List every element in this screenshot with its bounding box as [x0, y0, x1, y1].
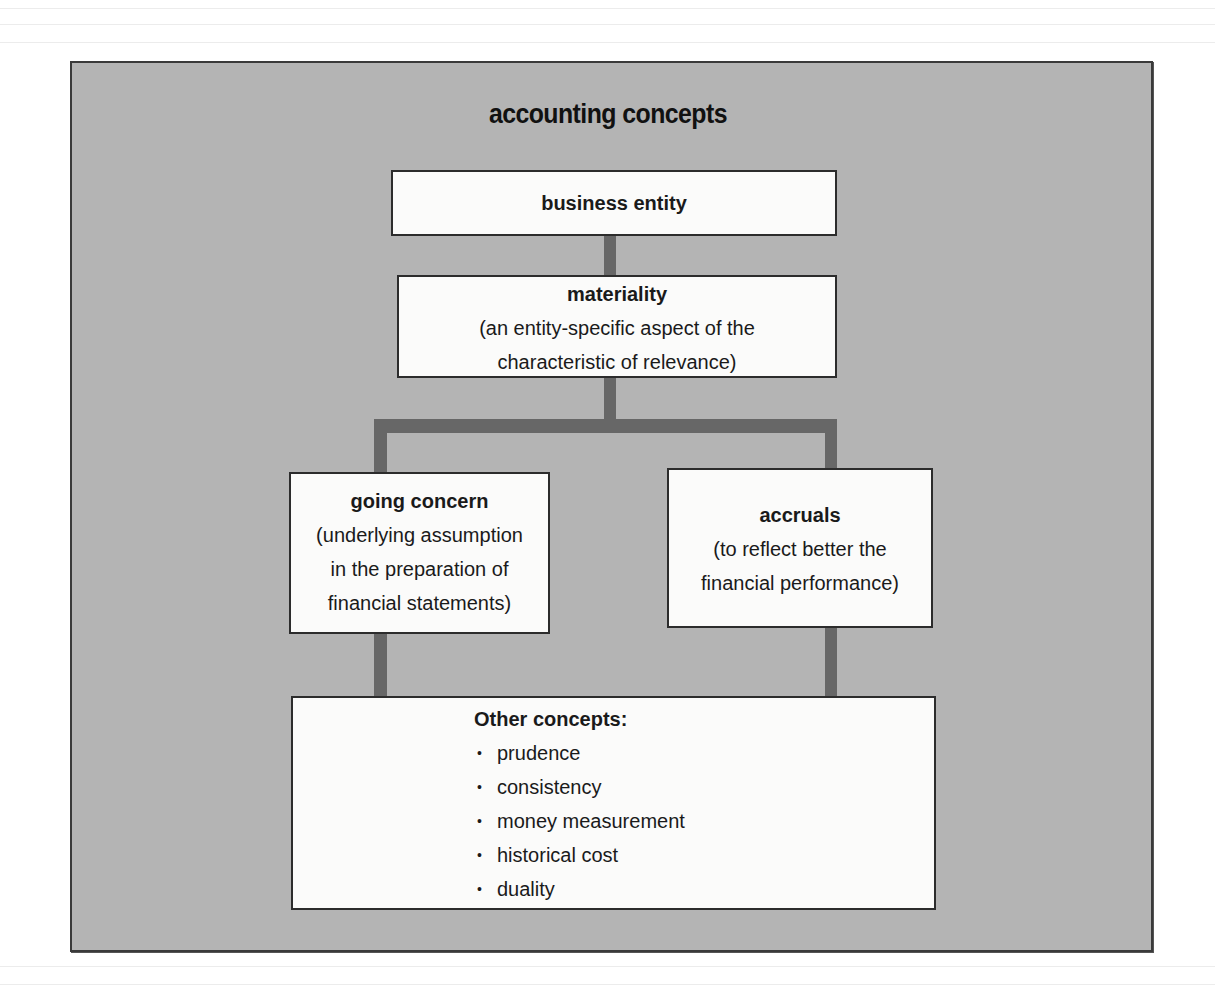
list-item-label: historical cost: [497, 844, 618, 866]
node-going-concern-line: in the preparation of: [291, 552, 548, 586]
list-item: • prudence: [477, 736, 685, 770]
connector-branch-horizontal: [374, 419, 837, 433]
node-business-entity-heading: business entity: [393, 186, 835, 220]
node-business-entity: business entity: [391, 170, 837, 236]
scan-bleed-line: [0, 24, 1215, 25]
list-item: • money measurement: [477, 804, 685, 838]
node-going-concern-heading: going concern: [291, 484, 548, 518]
node-materiality-heading: materiality: [399, 277, 835, 311]
list-item-label: prudence: [497, 742, 580, 764]
connector-business-entity-to-materiality: [604, 234, 616, 276]
node-going-concern-line: (underlying assumption: [291, 518, 548, 552]
node-materiality-line: (an entity-specific aspect of the: [399, 311, 835, 345]
bullet-icon: •: [477, 838, 482, 872]
list-item: • historical cost: [477, 838, 685, 872]
node-going-concern: going concern (underlying assumption in …: [289, 472, 550, 634]
scan-bleed-line: [0, 42, 1215, 43]
list-item-label: duality: [497, 878, 555, 900]
node-materiality: materiality (an entity-specific aspect o…: [397, 275, 837, 378]
list-item-label: money measurement: [497, 810, 685, 832]
node-accruals-line: financial performance): [669, 566, 931, 600]
bullet-icon: •: [477, 736, 482, 770]
node-accruals-line: (to reflect better the: [669, 532, 931, 566]
node-accruals: accruals (to reflect better the financia…: [667, 468, 933, 628]
list-item: • consistency: [477, 770, 685, 804]
bullet-icon: •: [477, 872, 482, 906]
node-going-concern-line: financial statements): [291, 586, 548, 620]
bullet-icon: •: [477, 804, 482, 838]
diagram-title: accounting concepts: [49, 99, 1167, 130]
list-item: • duality: [477, 872, 685, 906]
node-other-concepts-heading: Other concepts:: [474, 702, 627, 736]
scan-bleed-line: [0, 984, 1215, 985]
scan-bleed-line: [0, 8, 1215, 9]
node-other-concepts: Other concepts: • prudence • consistency…: [291, 696, 936, 910]
node-accruals-heading: accruals: [669, 498, 931, 532]
list-item-label: consistency: [497, 776, 602, 798]
node-materiality-line: characteristic of relevance): [399, 345, 835, 379]
bullet-icon: •: [477, 770, 482, 804]
other-concepts-list: • prudence • consistency • money measure…: [477, 736, 685, 906]
scan-bleed-line: [0, 966, 1215, 967]
